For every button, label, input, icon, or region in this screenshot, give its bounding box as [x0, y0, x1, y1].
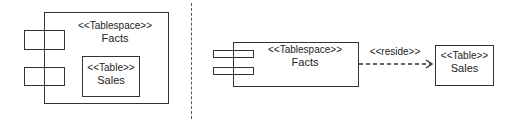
- reside-label: <<reside>>: [365, 45, 425, 58]
- stereotype-text: <<Table>>: [435, 49, 494, 62]
- name-text: Sales: [435, 62, 494, 75]
- table-sales-target-label: <<Table>> Sales: [435, 49, 494, 75]
